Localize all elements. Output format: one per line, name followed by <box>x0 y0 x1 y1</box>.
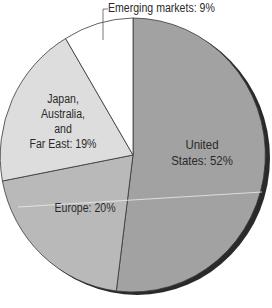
label-europe: Europe: 20% <box>45 201 124 216</box>
label-japan-australia-far-east: Japan, Australia, and Far East: 19% <box>23 92 102 152</box>
label-line: Japan, <box>23 92 102 107</box>
label-united-states: United States: 52% <box>167 137 237 169</box>
label-line: and <box>23 122 102 137</box>
label-line: United <box>167 137 237 153</box>
label-line: Australia, <box>23 107 102 122</box>
label-line: States: 52% <box>167 153 237 169</box>
label-emerging-markets: Emerging markets: 9% <box>108 1 215 16</box>
label-line: Far East: 19% <box>23 137 102 152</box>
